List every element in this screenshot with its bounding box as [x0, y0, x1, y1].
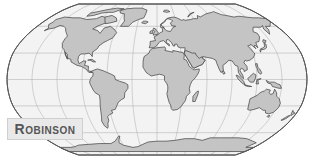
projection-label: ROBINSON	[15, 121, 76, 137]
projection-label-rest: OBINSON	[25, 125, 75, 136]
landmass-ireland	[150, 31, 153, 34]
landmass-hokkaido	[263, 40, 266, 43]
projection-label-initial: R	[15, 121, 26, 137]
world-map: ROBINSON	[0, 0, 313, 159]
projection-label-box: ROBINSON	[7, 118, 83, 140]
